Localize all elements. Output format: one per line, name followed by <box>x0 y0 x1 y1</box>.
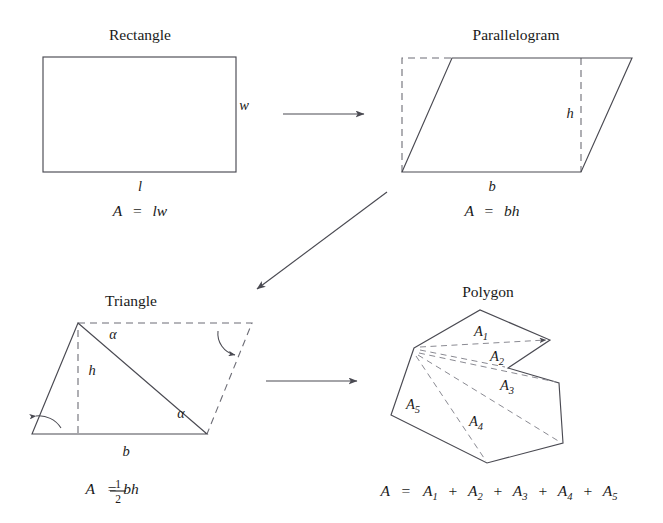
polygon-region-label-1: A1 <box>473 323 488 342</box>
svg-text:A = A1: A = A1 + A2 + A3 + A4 + A5 <box>380 482 618 503</box>
rectangle-title: Rectangle <box>109 26 171 43</box>
arrow-down-left-line <box>257 192 387 289</box>
triangle-formula: A = 1 2 bh <box>85 478 139 505</box>
svg-text:A = lw: A = lw <box>112 202 168 219</box>
polygon-region-label-4: A4 <box>468 413 484 432</box>
triangle-angle-label-bottom: α <box>177 406 185 421</box>
polygon-formula: A = A1 + A2 + A3 + A4 + A5 <box>380 482 618 503</box>
rectangle-shape <box>43 57 236 172</box>
triangle-formula-numerator: 1 <box>115 478 121 490</box>
svg-text:A =: A = <box>85 480 117 497</box>
parallelogram-height-label: h <box>566 105 573 121</box>
panel-polygon: Polygon A1 A2 A3 A4 A5 <box>380 283 618 503</box>
polygon-region-label-3: A3 <box>499 377 514 396</box>
parallelogram-formula-rhs: bh <box>504 202 520 219</box>
polygon-diagonal-4 <box>418 355 560 442</box>
triangle-formula-lhs: A <box>85 480 96 497</box>
parallelogram-formula-eq: = <box>484 202 493 219</box>
polygon-region-label-2: A2 <box>489 348 505 367</box>
parallelogram-formula-lhs: A <box>463 202 474 219</box>
rectangle-length-label: l <box>138 178 142 194</box>
triangle-base-label: b <box>122 443 129 459</box>
triangle-completion-guide <box>78 323 252 434</box>
figure-canvas: Rectangle w l A = lw Parallelogram h <box>0 0 663 523</box>
svg-text:A = bh: A = bh <box>463 202 519 219</box>
geometry-diagram: Rectangle w l A = lw Parallelogram h <box>0 0 663 523</box>
polygon-diagonal-3 <box>419 353 556 382</box>
rectangle-formula-rhs: lw <box>153 202 168 219</box>
rectangle-width-label: w <box>239 97 249 113</box>
polygon-formula-eq: = <box>402 482 411 499</box>
triangle-formula-denominator: 2 <box>115 493 121 505</box>
rectangle-formula-eq: = <box>133 202 142 219</box>
triangle-rotation-arc-left <box>36 416 61 428</box>
polygon-title: Polygon <box>462 283 514 300</box>
polygon-formula-lhs: A <box>380 482 391 499</box>
triangle-formula-rhs: bh <box>123 480 139 497</box>
polygon-region-label-5: A5 <box>405 396 420 415</box>
parallelogram-shape <box>402 58 632 172</box>
rectangle-formula: A = lw <box>112 202 168 219</box>
panel-rectangle: Rectangle w l A = lw <box>43 26 249 219</box>
rectangle-formula-lhs: A <box>112 202 123 219</box>
triangle-angle-label-top: α <box>109 327 117 342</box>
parallelogram-formula: A = bh <box>463 202 519 219</box>
parallelogram-title: Parallelogram <box>473 26 560 43</box>
triangle-rotation-arc-right <box>218 331 235 355</box>
arrow-parallelogram-to-triangle <box>257 192 387 289</box>
panel-triangle: Triangle α α h b A = 1 2 bh <box>32 292 252 505</box>
parallelogram-base-label: b <box>488 178 495 194</box>
triangle-title: Triangle <box>105 292 157 309</box>
triangle-height-label: h <box>88 362 95 378</box>
polygon-triangulation-fan <box>416 340 560 461</box>
panel-parallelogram: Parallelogram h b A = bh <box>402 26 632 219</box>
